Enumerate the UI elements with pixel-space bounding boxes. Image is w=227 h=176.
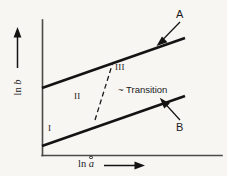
- region-label-ii: II: [74, 92, 81, 101]
- transition-dashed-line: [95, 62, 113, 120]
- curve-label-b: B: [176, 122, 183, 133]
- region-label-iii: III: [115, 63, 125, 72]
- x-axis-label-variable: a: [89, 158, 94, 169]
- x-axis-label: ln a: [78, 159, 94, 170]
- y-axis-label-variable: b: [12, 79, 23, 84]
- pointer-arrow-a-icon: [157, 22, 181, 46]
- curve-a-line: [42, 38, 185, 88]
- diagram-canvas: [0, 0, 227, 176]
- x-axis-label-variable-wrap: a: [89, 159, 94, 170]
- curve-label-a: A: [176, 9, 183, 20]
- y-axis-label: ln b: [2, 78, 32, 104]
- figure-container: ln b ln a I II III A B ~ Transition: [0, 0, 227, 176]
- ring-accent-icon: [89, 156, 92, 159]
- transition-label: ~ Transition: [118, 85, 167, 95]
- x-axis-direction-arrow: [104, 161, 145, 169]
- x-axis-label-prefix: ln: [78, 158, 89, 169]
- y-axis-direction-arrow: [14, 27, 22, 68]
- y-axis-label-text: ln b: [12, 66, 23, 110]
- y-axis-label-prefix: ln: [12, 85, 23, 96]
- region-label-i: I: [48, 124, 51, 133]
